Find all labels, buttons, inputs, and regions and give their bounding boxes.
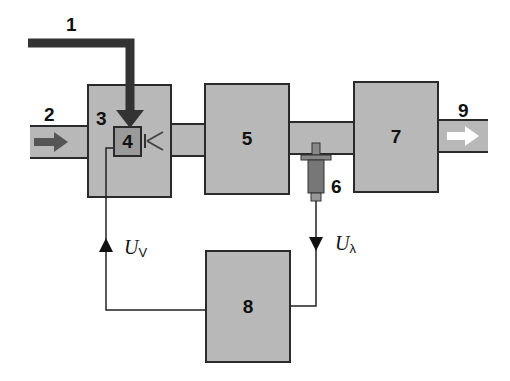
arrow-right-icon — [54, 132, 68, 152]
arrow-up-icon — [99, 238, 113, 252]
label-6: 6 — [331, 176, 342, 198]
label-2: 2 — [44, 104, 55, 126]
signal-line-uv — [106, 148, 205, 310]
feed-line-1 — [28, 43, 130, 113]
label-9: 9 — [458, 100, 469, 122]
label-3: 3 — [96, 108, 107, 130]
label-1: 1 — [66, 14, 77, 36]
signal-label-uv: UV — [124, 236, 147, 260]
arrow-right-white-icon — [465, 126, 479, 146]
lambda-sensor-icon — [312, 143, 320, 155]
diagram-lines — [0, 0, 510, 381]
signal-line-ul — [291, 201, 316, 306]
signal-label-ul: Uλ — [335, 232, 356, 256]
arrow-down-icon — [116, 110, 144, 128]
arrow-down-small-icon — [309, 237, 323, 251]
